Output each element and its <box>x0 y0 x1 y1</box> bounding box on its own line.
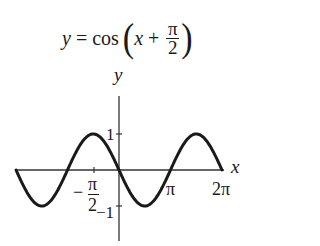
title-var: x <box>134 27 143 50</box>
x-tick-label-2pi: 2π <box>212 180 230 198</box>
title-plus: + <box>143 27 164 50</box>
title-frac-den: 2 <box>168 39 178 57</box>
title-eq: = cos <box>71 27 119 50</box>
y-tick-label-1: 1 <box>106 126 115 143</box>
title-close-paren: ) <box>181 18 192 57</box>
title-open-paren: ( <box>123 18 134 57</box>
chart-title: y = cos ( x + π 2 ) <box>62 14 193 62</box>
y-axis-label: y <box>114 65 122 84</box>
x-tick-label-pi: π <box>166 180 175 198</box>
y-tick-label-neg1: −1 <box>96 204 114 221</box>
title-fraction: π 2 <box>166 20 179 57</box>
x-tick-label-neg-half-pi-den: 2 <box>88 196 97 214</box>
x-tick-label-neg-half-pi-num: π <box>88 175 97 193</box>
x-tick-label-neg-half-pi-sign: − <box>73 183 83 201</box>
title-frac-num: π <box>168 20 178 38</box>
title-lhs: y <box>62 27 71 50</box>
x-axis-label: x <box>231 157 239 176</box>
